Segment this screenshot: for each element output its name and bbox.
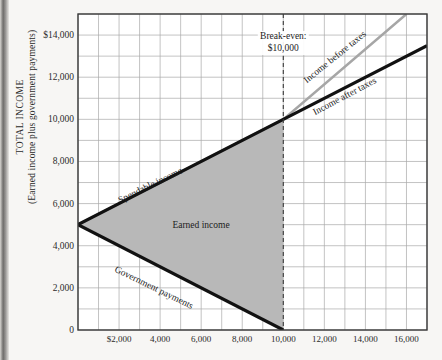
break-even-label-line2: $10,000	[260, 43, 306, 55]
chart-figure: TOTAL INCOME (Earned income plus governm…	[0, 0, 442, 360]
annotation-break-even: Break-even:$10,000	[258, 31, 308, 55]
plot-area	[0, 0, 442, 360]
annotation-earned-income: Earned income	[172, 220, 229, 230]
break-even-label-line1: Break-even:	[260, 31, 306, 43]
